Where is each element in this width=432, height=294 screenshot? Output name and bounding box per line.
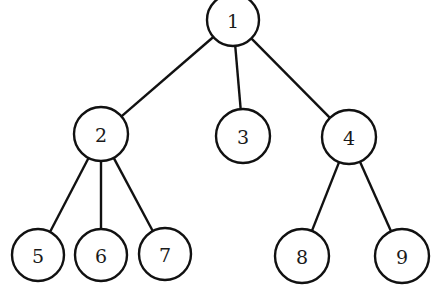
nodes-layer: 123456789 [12, 0, 429, 283]
edge-1-2 [121, 37, 213, 116]
edge-1-4 [251, 38, 330, 117]
node-label: 8 [296, 246, 308, 268]
tree-node-5: 5 [12, 229, 64, 281]
tree-node-3: 3 [216, 109, 270, 163]
tree-node-9: 9 [375, 229, 429, 283]
tree-node-4: 4 [322, 110, 376, 164]
edge-1-3 [235, 46, 240, 109]
tree-node-2: 2 [74, 107, 128, 161]
tree-diagram: 123456789 [0, 0, 432, 294]
tree-node-8: 8 [275, 229, 329, 283]
node-label: 5 [32, 245, 44, 267]
edge-4-9 [360, 162, 391, 232]
node-label: 3 [237, 126, 249, 148]
edge-4-8 [312, 162, 339, 231]
node-label: 9 [396, 246, 408, 268]
node-label: 2 [95, 124, 107, 146]
edge-2-5 [50, 158, 89, 232]
tree-node-7: 7 [139, 228, 191, 280]
node-label: 4 [343, 127, 355, 149]
tree-node-1: 1 [207, 0, 259, 46]
edge-2-7 [114, 158, 153, 231]
node-label: 7 [159, 244, 171, 266]
node-label: 1 [227, 10, 239, 32]
tree-node-6: 6 [75, 229, 127, 281]
node-label: 6 [95, 245, 107, 267]
